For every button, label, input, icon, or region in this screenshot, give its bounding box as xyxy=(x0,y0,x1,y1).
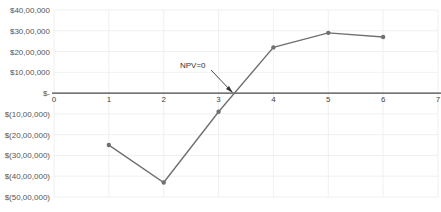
x-tick-label: 5 xyxy=(326,95,331,104)
y-tick-label: $- xyxy=(43,89,50,98)
y-axis-labels: $40,00,000$30,00,000$20,00,000$10,00,000… xyxy=(5,6,51,202)
npv-series-line xyxy=(109,33,383,183)
data-point-marker xyxy=(107,143,111,147)
x-tick-label: 0 xyxy=(52,95,57,104)
npv-zero-annotation: NPV=0 xyxy=(180,61,233,93)
x-tick-label: 6 xyxy=(381,95,386,104)
data-point-marker xyxy=(216,110,220,114)
x-tick-label: 2 xyxy=(161,95,166,104)
data-point-marker xyxy=(381,35,385,39)
npv-chart: $40,00,000$30,00,000$20,00,000$10,00,000… xyxy=(0,0,441,212)
y-tick-label: $(50,00,000) xyxy=(5,193,51,202)
data-point-marker xyxy=(271,45,275,49)
npv-zero-label: NPV=0 xyxy=(180,61,206,70)
x-axis-labels: 01234567 xyxy=(52,95,441,104)
y-tick-label: $(40,00,000) xyxy=(5,172,51,181)
x-tick-label: 3 xyxy=(216,95,221,104)
data-point-marker xyxy=(162,180,166,184)
y-tick-label: $(30,00,000) xyxy=(5,151,51,160)
y-tick-label: $(10,00,000) xyxy=(5,110,51,119)
y-tick-label: $20,00,000 xyxy=(10,48,51,57)
y-tick-label: $(20,00,000) xyxy=(5,131,51,140)
y-tick-label: $30,00,000 xyxy=(10,27,51,36)
y-tick-label: $40,00,000 xyxy=(10,6,51,15)
data-point-marker xyxy=(326,31,330,35)
x-tick-label: 1 xyxy=(107,95,112,104)
y-tick-label: $10,00,000 xyxy=(10,68,51,77)
x-tick-label: 4 xyxy=(271,95,276,104)
x-tick-label: 7 xyxy=(436,95,441,104)
figure-caption-clipped xyxy=(0,207,441,212)
npv-series-markers xyxy=(107,31,386,185)
